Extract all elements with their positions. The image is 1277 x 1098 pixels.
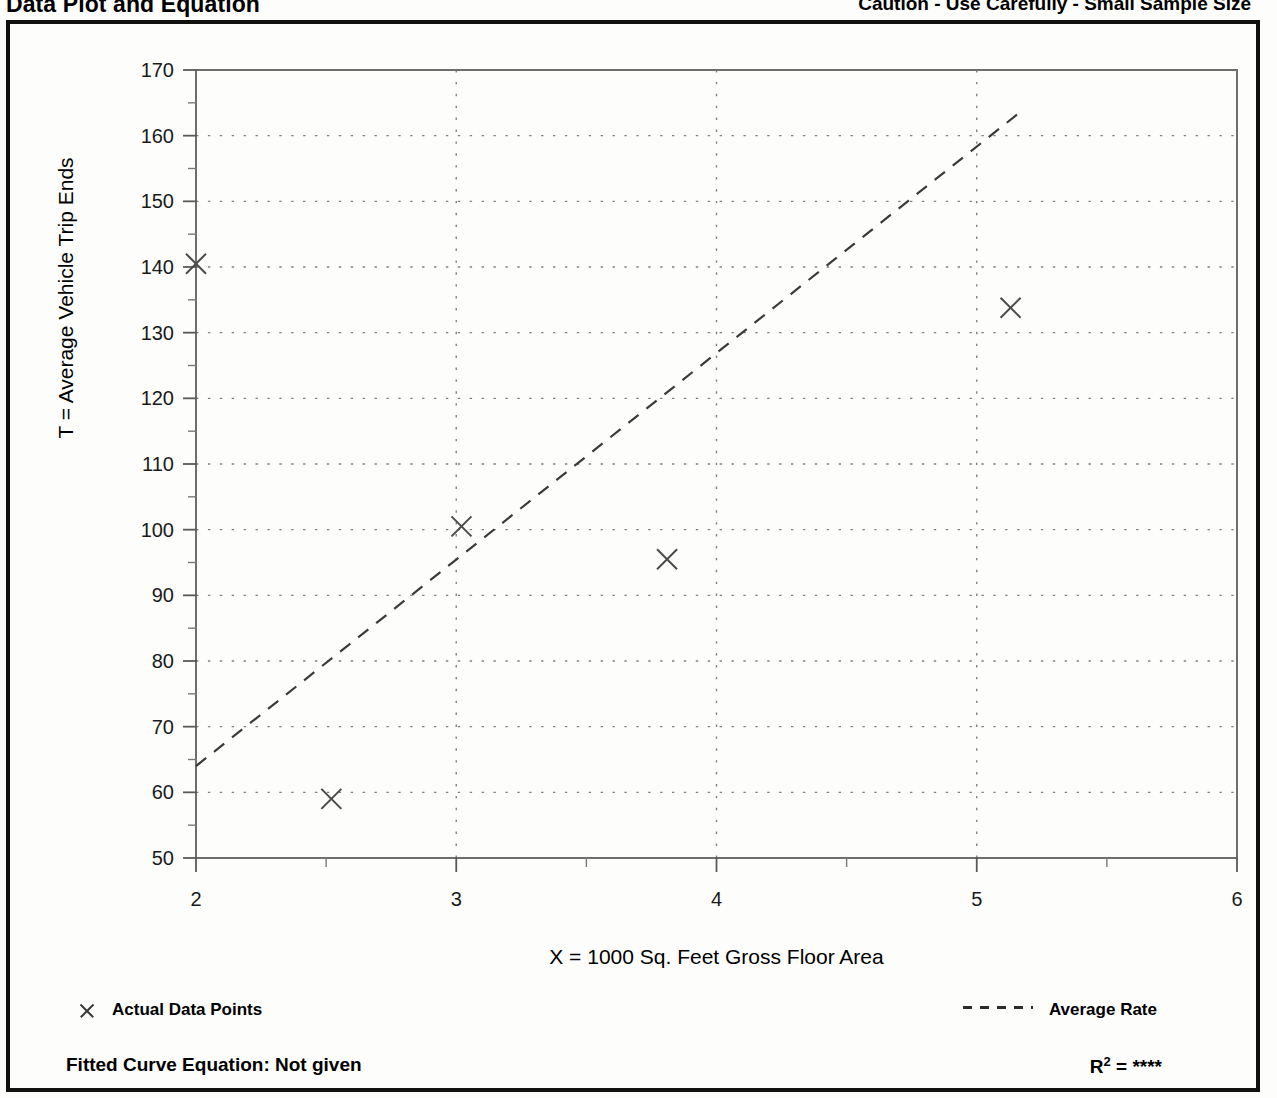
- chart-footer: Fitted Curve Equation: Not given R2 = **…: [0, 1054, 1277, 1086]
- content-frame: [6, 20, 1260, 1092]
- fitted-curve-equation: Fitted Curve Equation: Not given: [66, 1054, 362, 1076]
- r-squared-exponent: 2: [1104, 1054, 1111, 1069]
- chart-legend: Actual Data Points Average Rate: [0, 1000, 1277, 1034]
- dashed-line-icon: [963, 1006, 1033, 1009]
- page-title: Data Plot and Equation: [6, 0, 260, 17]
- x-marker-icon: [78, 1002, 96, 1020]
- y-axis-title: T = Average Vehicle Trip Ends: [54, 88, 78, 508]
- caution-note: Caution - Use Carefully - Small Sample S…: [858, 0, 1251, 15]
- r-squared-result: = ****: [1116, 1056, 1162, 1077]
- legend-item-average-rate: Average Rate: [963, 1000, 1157, 1020]
- page-header: Data Plot and Equation Caution - Use Car…: [0, 0, 1277, 17]
- legend-label-average-rate: Average Rate: [1049, 1000, 1157, 1020]
- legend-label-data-points: Actual Data Points: [112, 1000, 262, 1020]
- r-squared-value: R2 = ****: [1090, 1054, 1162, 1078]
- legend-item-data-points: Actual Data Points: [78, 1000, 262, 1020]
- r-squared-prefix: R: [1090, 1056, 1104, 1077]
- x-axis-title: X = 1000 Sq. Feet Gross Floor Area: [196, 945, 1237, 969]
- chart-page: Data Plot and Equation Caution - Use Car…: [0, 0, 1277, 1098]
